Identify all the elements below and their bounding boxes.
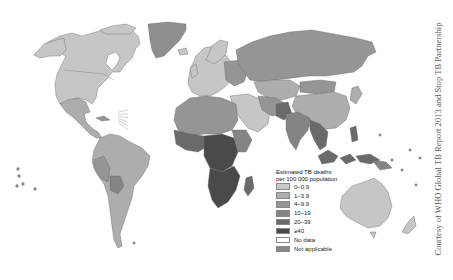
region-new-zealand [402, 216, 416, 234]
legend-label: ≥40 [294, 228, 304, 234]
region-north-africa [174, 96, 238, 136]
region-russia [236, 30, 376, 82]
region-png [372, 160, 392, 170]
legend-label: Not applicable [294, 246, 332, 252]
credit-text: Courtesy of WHO Global TB Report 2013 an… [433, 23, 443, 256]
region-north-america [34, 26, 140, 104]
region-madagascar [244, 176, 254, 196]
region-tasmania [370, 232, 376, 238]
legend-title-line2: per 100 000 population [276, 175, 366, 182]
region-japan [350, 86, 362, 104]
legend-label: No data [294, 237, 315, 243]
world-map [0, 0, 453, 280]
legend-label: 1–3.9 [294, 193, 309, 199]
region-philippines [350, 126, 358, 142]
legend-swatch [276, 219, 290, 226]
legend-item: 4–9.9 [276, 200, 366, 209]
image-credit: Courtesy of WHO Global TB Report 2013 an… [431, 8, 445, 270]
legend-item: 10–19 [276, 209, 366, 218]
caribbean-callouts [118, 110, 128, 130]
region-indonesia [318, 150, 380, 164]
legend-swatch [276, 246, 290, 253]
legend-label: 0–0.9 [294, 184, 309, 190]
legend-label: 4–9.9 [294, 201, 309, 207]
legend-title-line1: Estimated TB deaths [276, 168, 366, 175]
legend-item: Not applicable [276, 245, 366, 254]
legend-swatch [276, 183, 290, 190]
legend-swatch [276, 237, 290, 244]
region-mexico [60, 98, 102, 138]
legend-swatch [276, 192, 290, 199]
region-arctic-islands [100, 24, 136, 34]
region-southern-africa [208, 166, 240, 208]
region-iceland [178, 48, 188, 55]
legend-swatch [276, 210, 290, 217]
legend-item: 20–39 [276, 218, 366, 227]
legend-swatch [276, 201, 290, 208]
legend-swatch [276, 228, 290, 235]
legend-label: 10–19 [294, 210, 311, 216]
region-central-africa [204, 134, 238, 172]
region-mongolia [300, 80, 336, 94]
legend-label: 20–39 [294, 219, 311, 225]
legend-item: No data [276, 236, 366, 245]
map-legend: Estimated TB deaths per 100 000 populati… [276, 168, 366, 253]
legend-item: 0–0.9 [276, 182, 366, 191]
legend-item: 1–3.9 [276, 191, 366, 200]
region-india [286, 112, 310, 150]
region-caribbean [96, 116, 110, 121]
region-south-america [92, 134, 150, 248]
legend-item: ≥40 [276, 227, 366, 236]
